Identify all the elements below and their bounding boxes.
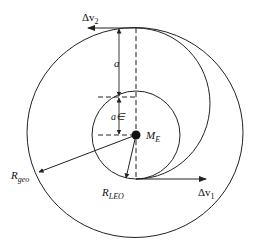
earth-dot	[132, 131, 141, 140]
r-geo-label: Rgeo	[10, 169, 29, 184]
ae-label: a∈	[111, 111, 126, 122]
delta-v2-label: Δv2	[82, 11, 99, 26]
r-leo-label: RLEO	[101, 186, 124, 201]
transfer-orbit	[136, 28, 210, 179]
r-leo-arrow	[126, 135, 136, 178]
a-label: a	[114, 57, 120, 69]
delta-v1-label: Δv1	[198, 186, 215, 201]
hohmann-transfer-diagram: Δv2 a a∈ ME Rgeo RLEO Δv1	[0, 0, 254, 248]
earth-label: ME	[145, 129, 160, 144]
r-geo-arrow	[39, 135, 136, 172]
